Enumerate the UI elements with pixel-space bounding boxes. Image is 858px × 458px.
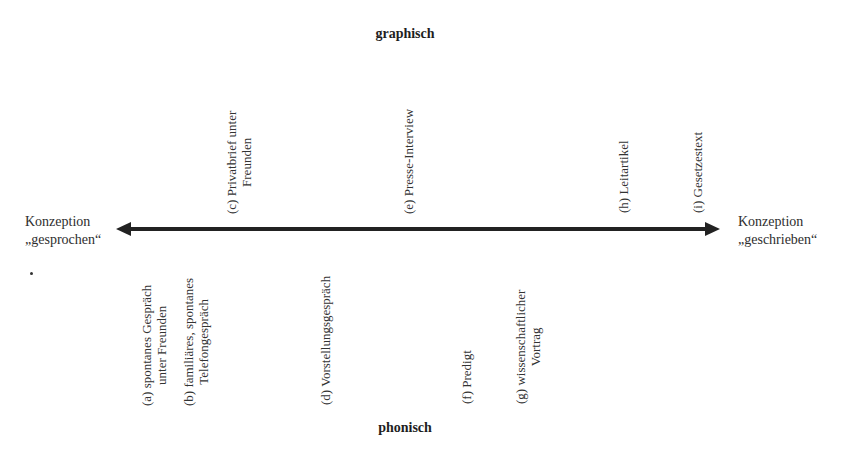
item-c-line1: (c) Privatbrief unter <box>224 111 239 214</box>
pole-geschrieben-line1: Konzeption <box>738 213 817 231</box>
item-b-line2: Telefongespräch <box>196 278 211 406</box>
conception-axis-arrow <box>0 0 858 458</box>
item-c-line2: Freunden <box>239 111 254 214</box>
item-g-line1: (g) wissenschaftlicher <box>513 290 528 404</box>
stray-dot <box>30 272 33 275</box>
pole-gesprochen-line1: Konzeption <box>25 213 101 231</box>
item-d-line1: (d) Vorstellungsgespräch <box>318 276 333 405</box>
item-e-line1: (e) Presse-Interview <box>401 109 416 214</box>
arrowhead-right-icon <box>705 222 720 236</box>
item-a-line1: (a) spontanes Gespräch <box>139 285 154 406</box>
item-g-line2: Vortrag <box>528 290 543 404</box>
pole-gesprochen-line2: „gesprochen“ <box>25 231 101 249</box>
arrowhead-left-icon <box>116 222 131 236</box>
item-h-line1: (h) Leitartikel <box>616 140 631 213</box>
item-i-line1: (i) Gesetzestext <box>690 132 705 213</box>
item-b-line1: (b) familiäres, spontanes <box>181 278 196 406</box>
pole-geschrieben: Konzeption „geschrieben“ <box>738 213 817 249</box>
pole-gesprochen: Konzeption „gesprochen“ <box>25 213 101 249</box>
pole-geschrieben-line2: „geschrieben“ <box>738 231 817 249</box>
item-a-line2: unter Freunden <box>154 285 169 406</box>
item-f-line1: (f) Predigt <box>459 350 474 404</box>
